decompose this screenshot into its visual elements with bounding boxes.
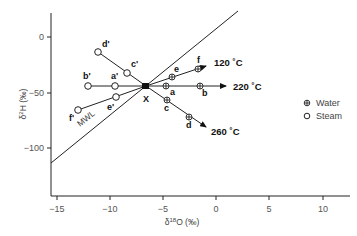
steam-label-f: f' xyxy=(69,113,74,123)
x-tick-label: 10 xyxy=(318,204,328,214)
steam-label-c: c' xyxy=(131,59,138,69)
steam-label-e: e' xyxy=(107,102,114,112)
steam-label-d: d' xyxy=(102,39,110,49)
axes: 0 −50 −100 −15 −10 −5 0 5 10 δ18O (‰) δ2… xyxy=(18,13,350,227)
water-point-f xyxy=(195,66,201,72)
isotope-chart: 0 −50 −100 −15 −10 −5 0 5 10 δ18O (‰) δ2… xyxy=(0,0,357,236)
x-tick-label: 5 xyxy=(266,204,271,214)
legend-water-label: Water xyxy=(316,98,340,108)
water-point-e xyxy=(169,74,175,80)
origin-label: X xyxy=(143,94,149,104)
x-tick-label: −5 xyxy=(158,204,168,214)
legend-steam-label: Steam xyxy=(316,111,342,121)
steam-point-c xyxy=(124,70,131,77)
water-label-d: d xyxy=(186,120,192,130)
y-tick-label: 0 xyxy=(39,32,44,42)
water-label-f: f xyxy=(197,55,201,65)
x-tick-label: −15 xyxy=(49,204,64,214)
y-tick-label: −100 xyxy=(24,143,44,153)
water-label-e: e xyxy=(174,64,179,74)
y-tick-label: −50 xyxy=(29,88,44,98)
steam-point-d xyxy=(95,49,102,56)
temp-label-220: 220 ˚C xyxy=(233,81,262,92)
legend-steam-icon xyxy=(304,113,310,119)
origin-point xyxy=(142,83,149,89)
water-label-a: a xyxy=(170,87,176,97)
x-tick-label: 0 xyxy=(213,204,218,214)
x-axis-title: δ18O (‰) xyxy=(165,217,200,227)
legend: Water Steam xyxy=(304,98,342,121)
water-label-c: c xyxy=(164,103,169,113)
water-point-a xyxy=(163,83,169,89)
steam-markers xyxy=(75,49,131,114)
y-axis-title: δ2H (‰) xyxy=(18,88,28,119)
arrow-260 xyxy=(146,86,206,127)
legend-water-icon xyxy=(304,100,310,106)
steam-point-a xyxy=(112,83,119,90)
x-tick-label: −10 xyxy=(102,204,117,214)
steam-point-f xyxy=(75,107,82,114)
steam-point-e xyxy=(113,94,120,101)
temp-label-120: 120 ˚C xyxy=(214,57,243,68)
steam-label-b: b' xyxy=(83,71,91,81)
steam-point-b xyxy=(85,83,92,90)
steam-label-a: a' xyxy=(111,71,118,81)
temp-label-260: 260 ˚C xyxy=(211,126,240,137)
water-label-b: b xyxy=(202,88,208,98)
